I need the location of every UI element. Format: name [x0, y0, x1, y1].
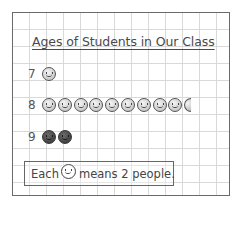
smiley-face-icon — [153, 98, 167, 112]
smiley-face-icon — [168, 98, 182, 112]
row-age-8: 8 — [28, 97, 191, 113]
row-label: 8 — [28, 98, 40, 112]
key-suffix: means 2 people. — [79, 167, 175, 181]
row-age-9: 9 — [28, 129, 74, 145]
chart-title: Ages of Students in Our Class — [32, 34, 212, 49]
symbols — [42, 130, 74, 144]
dark-smiley-face-icon — [58, 130, 72, 144]
symbols — [42, 98, 191, 112]
half-smiley-face-icon — [184, 98, 191, 112]
row-label: 9 — [28, 130, 40, 144]
smiley-face-icon — [61, 164, 76, 179]
row-age-7: 7 — [28, 66, 58, 82]
smiley-face-icon — [89, 98, 103, 112]
smiley-face-icon — [74, 98, 88, 112]
smiley-face-icon — [42, 67, 56, 81]
key-prefix: Each — [31, 167, 59, 181]
dark-smiley-face-icon — [42, 130, 56, 144]
symbols — [42, 67, 58, 81]
smiley-face-icon — [137, 98, 151, 112]
smiley-face-icon — [42, 98, 56, 112]
smiley-face-icon — [105, 98, 119, 112]
chart-key: Each means 2 people. — [24, 161, 174, 186]
smiley-face-icon — [121, 98, 135, 112]
smiley-face-icon — [58, 98, 72, 112]
row-label: 7 — [28, 67, 40, 81]
